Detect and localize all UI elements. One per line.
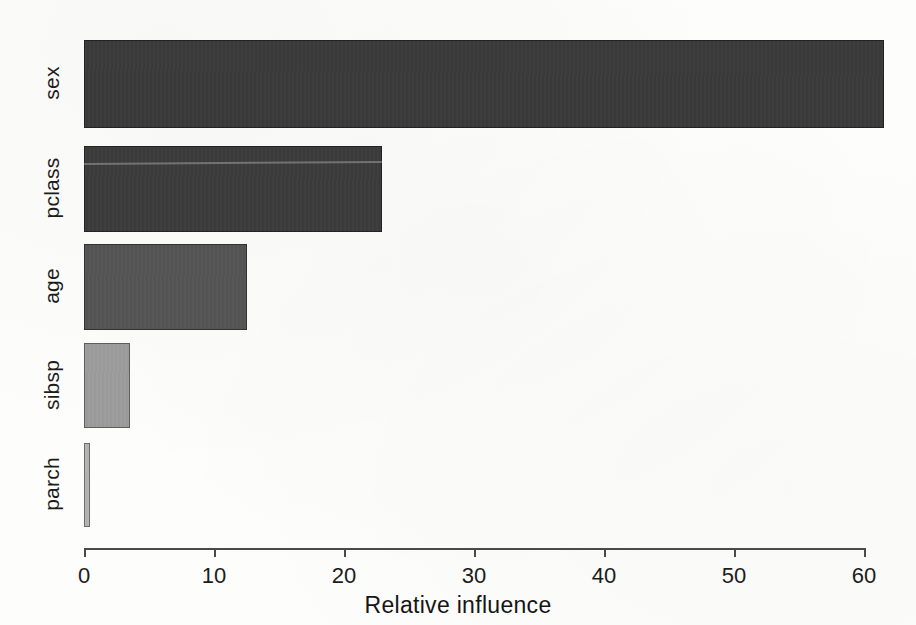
relative-influence-chart: sexpclassagesibspparch 0102030405060 Rel… (0, 0, 916, 625)
x-tick-20 (344, 548, 346, 557)
category-label-sex: sex (40, 23, 64, 143)
x-tick-label-0: 0 (54, 563, 114, 589)
x-tick-label-50: 50 (704, 563, 764, 589)
x-axis-title: Relative influence (0, 592, 916, 619)
x-tick-30 (474, 548, 476, 557)
category-label-parch: parch (40, 424, 64, 544)
x-tick-label-20: 20 (314, 563, 374, 589)
x-tick-40 (604, 548, 606, 557)
bar-parch (84, 443, 90, 527)
x-tick-0 (84, 548, 86, 557)
x-tick-label-60: 60 (834, 563, 894, 589)
bar-sex (84, 40, 884, 128)
x-tick-60 (864, 548, 866, 557)
x-tick-label-40: 40 (574, 563, 634, 589)
plot-area: sexpclassagesibspparch 0102030405060 Rel… (0, 0, 916, 625)
x-tick-10 (214, 548, 216, 557)
bar-sibsp (84, 343, 130, 428)
bar-age (84, 244, 247, 330)
x-tick-label-30: 30 (444, 563, 504, 589)
bar-pclass (84, 146, 382, 232)
x-tick-label-10: 10 (184, 563, 244, 589)
x-tick-50 (734, 548, 736, 557)
